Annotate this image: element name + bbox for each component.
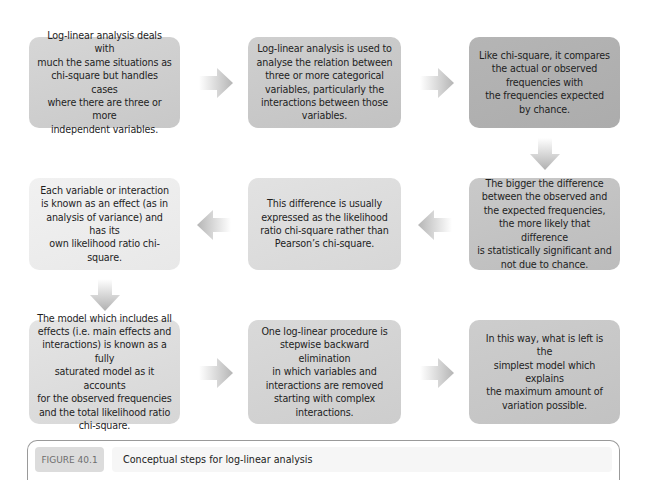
step-6-box: Each variable or interaction is known as… — [29, 178, 180, 270]
text-line: is statistically significant and — [477, 244, 612, 257]
text-line: not due to chance. — [477, 258, 612, 271]
text-line: Each variable or interaction — [37, 184, 172, 197]
step-1-text: Log-linear analysis deals with much the … — [37, 29, 172, 136]
text-line: the actual or observed — [479, 62, 610, 75]
step-7-text: The model which includes all effects (i.… — [37, 312, 172, 433]
text-line: in which variables and — [256, 365, 393, 378]
step-4-text: The bigger the difference between the ob… — [477, 177, 612, 271]
text-line: for the observed frequencies — [37, 392, 172, 405]
step-5-box: This difference is usually expressed as … — [248, 178, 401, 270]
text-line: One log-linear procedure is — [256, 325, 393, 338]
text-line: analyse the relation between — [257, 56, 393, 69]
text-line: The model which includes all — [37, 312, 172, 325]
arrow-right-icon — [420, 68, 454, 98]
text-line: where there are three or more — [37, 96, 172, 123]
text-line: Log-linear analysis deals with — [37, 29, 172, 56]
text-line: expressed as the likelihood — [260, 211, 389, 224]
step-3-box: Like chi-square, it compares the actual … — [469, 37, 620, 128]
figure-caption: Conceptual steps for log-linear analysis — [123, 447, 313, 472]
text-line: the expected frequencies, — [477, 204, 612, 217]
text-line: starting with complex — [256, 392, 393, 405]
text-line: This difference is usually — [260, 197, 389, 210]
figure-number-badge: FIGURE 40.1 — [35, 447, 104, 472]
arrow-right-icon — [199, 358, 233, 388]
step-3-text: Like chi-square, it compares the actual … — [479, 49, 610, 116]
text-line: independent variables. — [37, 123, 172, 136]
text-line: and the total likelihood ratio — [37, 406, 172, 419]
text-line: interactions. — [256, 406, 393, 419]
arrow-left-icon — [197, 210, 231, 240]
text-line: saturated model as it accounts — [37, 365, 172, 392]
text-line: much the same situations as — [37, 56, 172, 69]
text-line: interactions between those — [257, 96, 393, 109]
text-line: chi-square. — [37, 419, 172, 432]
text-line: The bigger the difference — [477, 177, 612, 190]
text-line: simplest model which explains — [477, 359, 612, 386]
text-line: by chance. — [479, 103, 610, 116]
step-5-text: This difference is usually expressed as … — [260, 197, 389, 251]
text-line: ratio chi-square rather than — [260, 224, 389, 237]
step-4-box: The bigger the difference between the ob… — [469, 178, 620, 270]
text-line: variables. — [257, 109, 393, 122]
step-9-text: In this way, what is left is the simples… — [477, 332, 612, 412]
text-line: variables, particularly the — [257, 83, 393, 96]
step-8-text: One log-linear procedure is stepwise bac… — [256, 325, 393, 419]
arrow-right-icon — [420, 358, 454, 388]
step-6-text: Each variable or interaction is known as… — [37, 184, 172, 264]
step-1-box: Log-linear analysis deals with much the … — [29, 37, 180, 128]
text-line: the maximum amount of — [477, 385, 612, 398]
text-line: effects (i.e. main effects and — [37, 325, 172, 338]
text-line: the frequencies expected — [479, 89, 610, 102]
text-line: three or more categorical — [257, 69, 393, 82]
text-line: the more likely that difference — [477, 217, 612, 244]
arrow-down-icon — [530, 138, 560, 170]
step-7-box: The model which includes all effects (i.… — [29, 320, 180, 424]
text-line: between the observed and — [477, 190, 612, 203]
step-2-text: Log-linear analysis is used to analyse t… — [257, 42, 393, 122]
step-2-box: Log-linear analysis is used to analyse t… — [248, 37, 401, 128]
text-line: Log-linear analysis is used to — [257, 42, 393, 55]
text-line: stepwise backward elimination — [256, 338, 393, 365]
text-line: chi-square but handles cases — [37, 69, 172, 96]
text-line: analysis of variance) and has its — [37, 211, 172, 238]
text-line: is known as an effect (as in — [37, 197, 172, 210]
text-line: Like chi-square, it compares — [479, 49, 610, 62]
text-line: interactions) is known as a fully — [37, 338, 172, 365]
arrow-down-icon — [90, 279, 120, 311]
arrow-left-icon — [418, 210, 452, 240]
step-9-box: In this way, what is left is the simples… — [469, 320, 620, 424]
text-line: frequencies with — [479, 76, 610, 89]
text-line: Pearson’s chi-square. — [260, 237, 389, 250]
text-line: variation possible. — [477, 399, 612, 412]
arrow-right-icon — [199, 68, 233, 98]
step-8-box: One log-linear procedure is stepwise bac… — [248, 320, 401, 424]
text-line: In this way, what is left is the — [477, 332, 612, 359]
text-line: own likelihood ratio chi-square. — [37, 237, 172, 264]
text-line: interactions are removed — [256, 379, 393, 392]
